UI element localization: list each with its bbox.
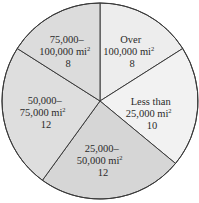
pie-chart: Over 100,000 mi2 8 Less than 25,000 mi2 … — [0, 0, 199, 203]
